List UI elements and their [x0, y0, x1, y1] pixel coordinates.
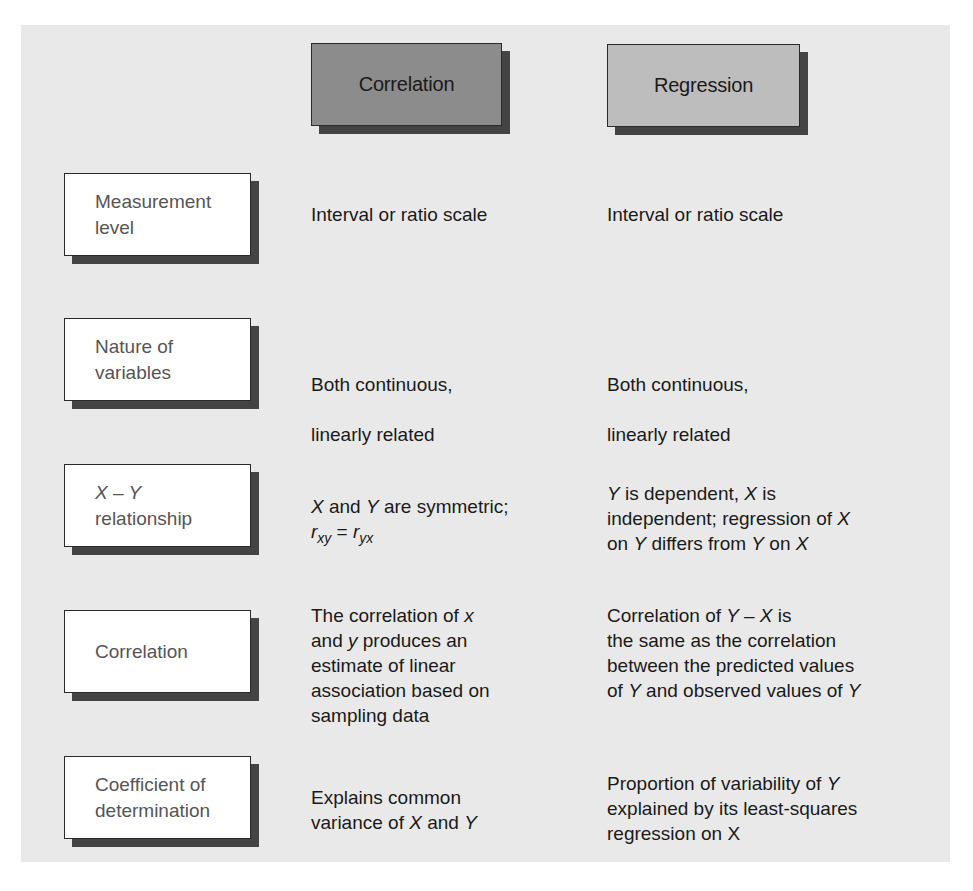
var-x: X — [311, 496, 324, 517]
var-x: X — [796, 533, 809, 554]
cell-xy-correlation: X and Y are symmetric; rxy = ryx — [311, 494, 581, 544]
cell-line: explained by its least-squares — [607, 796, 927, 821]
cell-nature-regression: Both continuous, linearly related — [607, 347, 927, 472]
text: The correlation of — [311, 605, 464, 626]
cell-line: the same as the correlation — [607, 628, 927, 653]
text: and — [311, 630, 348, 651]
cell-correlation-correlation: The correlation of x and y produces an e… — [311, 603, 581, 728]
var-y: Y — [827, 773, 840, 794]
var-y: Y — [848, 680, 861, 701]
row-label-line: Measurement — [95, 189, 211, 215]
row-label-line: level — [95, 215, 211, 241]
cell-line: association based on — [311, 678, 581, 703]
cell-line: Both continuous, — [607, 372, 927, 397]
text: differs from — [646, 533, 751, 554]
var-y: Y — [628, 680, 641, 701]
text: of — [607, 680, 628, 701]
text: is — [757, 483, 776, 504]
text: produces an — [357, 630, 467, 651]
equals: = — [331, 521, 353, 542]
cell-line: between the predicted values — [607, 653, 927, 678]
cell-line: Both continuous, — [311, 372, 581, 397]
row-label-nature-of-variables: Nature of variables — [64, 318, 251, 401]
cell-measurement-regression: Interval or ratio scale — [607, 202, 927, 227]
header-correlation-label: Correlation — [359, 73, 455, 96]
text: and — [422, 812, 464, 833]
text: and observed values of — [641, 680, 848, 701]
cell-line: sampling data — [311, 703, 581, 728]
header-regression-label: Regression — [654, 74, 753, 97]
text: are symmetric; — [379, 496, 509, 517]
cell-line: linearly related — [311, 422, 581, 447]
row-label-line: Nature of — [95, 334, 173, 360]
cell-measurement-correlation: Interval or ratio scale — [311, 202, 581, 227]
row-label-line: determination — [95, 798, 210, 824]
header-correlation: Correlation — [311, 43, 502, 126]
var-y: Y — [633, 533, 646, 554]
var-y: Y — [607, 483, 620, 504]
row-label-correlation: Correlation — [64, 610, 251, 693]
row-label-coefficient-of-determination: Coefficient of determination — [64, 756, 251, 839]
text: Proportion of variability of — [607, 773, 827, 794]
row-label-xy-relationship: X – Y relationship — [64, 464, 251, 547]
cell-line: linearly related — [607, 422, 927, 447]
text: on — [764, 533, 796, 554]
var-y: Y — [464, 812, 477, 833]
cell-determination-regression: Proportion of variability of Y explained… — [607, 771, 927, 846]
var-y: Y — [366, 496, 379, 517]
row-label-line: Coefficient of — [95, 772, 210, 798]
cell-nature-correlation: Both continuous, linearly related — [311, 347, 581, 472]
text: variance of — [311, 812, 409, 833]
cell-xy-regression: Y is dependent, X is independent; regres… — [607, 481, 927, 556]
text: is — [772, 605, 791, 626]
var-y-x: Y – X — [726, 605, 772, 626]
text: independent; regression of — [607, 508, 837, 529]
row-label-line: variables — [95, 360, 173, 386]
var-x: X — [409, 812, 422, 833]
text: Correlation of — [607, 605, 726, 626]
text: and — [324, 496, 366, 517]
subscript: xy — [317, 530, 331, 546]
var-x: X — [837, 508, 850, 529]
cell-line: regression on X — [607, 821, 927, 846]
row-label-measurement-level: Measurement level — [64, 173, 251, 256]
text: on — [607, 533, 633, 554]
subscript: yx — [359, 530, 373, 546]
var-x: x — [464, 605, 474, 626]
text: is dependent, — [620, 483, 745, 504]
cell-correlation-regression: Correlation of Y – X is the same as the … — [607, 603, 927, 703]
cell-determination-correlation: Explains common variance of X and Y — [311, 785, 581, 835]
row-label-line: relationship — [95, 506, 192, 532]
row-label-line: Correlation — [95, 639, 188, 665]
cell-line: Explains common — [311, 785, 581, 810]
header-regression: Regression — [607, 44, 800, 127]
var-y: Y — [751, 533, 764, 554]
var-x: X — [744, 483, 757, 504]
cell-line: estimate of linear — [311, 653, 581, 678]
row-label-line: X – Y — [95, 480, 192, 506]
